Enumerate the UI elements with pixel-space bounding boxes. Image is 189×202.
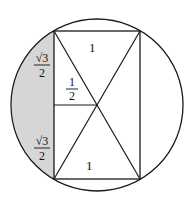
label-lower-left-numerator: √3 [36, 134, 49, 148]
label-lower-left-denominator: 2 [39, 149, 45, 163]
label-half-numerator: 1 [69, 75, 75, 89]
label-bottom-side: 1 [86, 158, 93, 173]
label-upper-left-denominator: 2 [39, 66, 45, 80]
label-half-denominator: 2 [69, 89, 75, 103]
inscribed-rectangle-diagram: 1 1 1 2 √3 2 √3 2 [0, 0, 189, 202]
label-upper-left-numerator: √3 [36, 51, 49, 65]
label-top-side: 1 [89, 40, 96, 55]
